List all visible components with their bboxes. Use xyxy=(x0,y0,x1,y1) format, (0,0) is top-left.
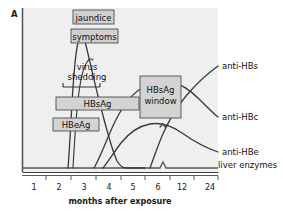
x-tick-label-3: 3 xyxy=(81,183,86,192)
x-tick-label-2: 2 xyxy=(56,183,61,192)
series-label-anti-hbe: anti-HBe xyxy=(222,147,259,157)
hbsag-window-line2: window xyxy=(144,96,176,106)
x-tick-label-6: 6 xyxy=(155,183,160,192)
figure-panel: A 1 2 3 4 5 6 xyxy=(0,0,283,214)
x-tick-label-1: 1 xyxy=(31,183,36,192)
hepatitis-b-serology-chart: A 1 2 3 4 5 6 xyxy=(0,0,283,214)
series-label-anti-hbc: anti-HBc xyxy=(222,112,259,122)
label-symptoms: symptoms xyxy=(71,29,118,43)
x-tick-label-24: 24 xyxy=(205,183,215,192)
x-tick-label-5: 5 xyxy=(130,183,135,192)
virus-shedding-line2: shedding xyxy=(68,72,107,82)
x-axis-title: months after exposure xyxy=(68,197,172,206)
x-tick-label-4: 4 xyxy=(106,183,111,192)
series-label-anti-hbs: anti-HBs xyxy=(222,61,259,71)
x-tick-label-12: 12 xyxy=(177,183,187,192)
label-jaundice: jaundice xyxy=(73,10,114,24)
symptoms-label: symptoms xyxy=(72,32,117,42)
label-hbsag-bar: HBsAg xyxy=(56,97,139,110)
label-hbsag-window: HBsAg window xyxy=(140,76,181,118)
hbsag-window-line1: HBsAg xyxy=(147,85,175,95)
hbeag-bar-label: HBeAg xyxy=(62,120,91,130)
hbsag-bar-label: HBsAg xyxy=(84,99,112,109)
virus-shedding-line1: virus xyxy=(77,62,98,72)
label-hbeag-bar: HBeAg xyxy=(53,118,99,131)
panel-letter: A xyxy=(11,9,18,19)
series-label-liver-enzymes: liver enzymes xyxy=(218,160,278,170)
jaundice-label: jaundice xyxy=(74,13,111,23)
